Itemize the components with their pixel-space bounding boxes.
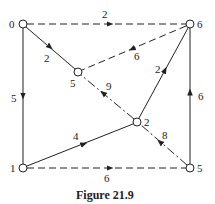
edge-1-5: 6 <box>27 168 186 184</box>
node-2: 2 <box>133 116 150 128</box>
edge-1-2: 4 <box>27 124 133 166</box>
edge-6-5: 6 <box>82 26 186 70</box>
edge-weight: 6 <box>134 50 140 62</box>
edge-weight: 8 <box>162 129 168 141</box>
node-label: 5 <box>197 162 203 174</box>
edge-0-5: 2 <box>26 27 75 69</box>
edge-weight: 4 <box>73 130 79 142</box>
edge-0-1: 5 <box>11 28 23 164</box>
edge-2-5: 9 <box>81 75 134 119</box>
node-label: 2 <box>144 116 150 128</box>
edge-weight: 2 <box>102 8 108 20</box>
edge-weight: 6 <box>198 90 204 102</box>
graph-diagram: 2 2 5 6 2 9 4 6 <box>0 0 215 204</box>
edge-5-6: 6 <box>190 28 204 164</box>
node-label: 0 <box>9 18 15 30</box>
edge-0-6: 2 <box>27 8 186 24</box>
edge-weight: 9 <box>106 80 112 92</box>
edge-weight: 5 <box>11 92 17 104</box>
edge-weight: 6 <box>104 172 110 184</box>
edge-2-6: 2 <box>139 28 188 118</box>
node-5-middle: 5 <box>70 68 82 89</box>
node-5-bottom: 5 <box>186 162 203 174</box>
node-0: 0 <box>9 18 27 30</box>
edge-5-2: 8 <box>141 125 187 165</box>
node-1: 1 <box>10 162 27 174</box>
figure-caption: Figure 21.9 <box>76 188 134 202</box>
edge-weight: 2 <box>155 63 161 75</box>
node-label: 5 <box>70 77 76 89</box>
node-label: 6 <box>197 18 203 30</box>
node-6: 6 <box>186 18 203 30</box>
edge-weight: 2 <box>44 52 50 64</box>
node-label: 1 <box>10 162 16 174</box>
